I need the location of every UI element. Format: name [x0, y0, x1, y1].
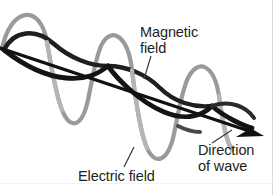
figure-bottom-border: [0, 183, 273, 184]
figure-right-border: [272, 0, 273, 195]
magnetic-tail-stub: [178, 126, 200, 132]
magnetic-field-label-line1: Magnetic: [140, 24, 198, 40]
direction-of-wave-label: Directionof wave: [198, 142, 254, 174]
electric-field-label: Electric field: [78, 168, 155, 184]
magnetic-field-label-line2: field: [140, 40, 166, 56]
electric-front-seg-2: [132, 70, 147, 148]
propagation-axis-line: [0, 48, 252, 132]
electromagnetic-wave-figure: Magneticfield Electric field Directionof…: [0, 0, 280, 195]
direction-of-wave-label-line2: of wave: [198, 158, 247, 174]
magnetic-field-label: Magneticfield: [140, 24, 198, 56]
magnetic-front-loop-2: [108, 66, 212, 117]
direction-of-wave-label-line1: Direction: [198, 142, 254, 158]
electric-field-leader-line: [124, 147, 134, 167]
